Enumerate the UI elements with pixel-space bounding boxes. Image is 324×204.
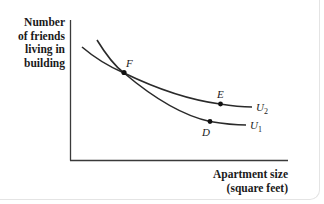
curve-u2-label: U2 — [256, 101, 268, 116]
indifference-curve-u1 — [97, 40, 246, 125]
point-f-marker — [121, 70, 126, 75]
point-d-marker — [208, 119, 213, 124]
curve-u1-label: U1 — [250, 119, 262, 134]
point-e-marker — [218, 102, 223, 107]
point-f-label: F — [125, 57, 133, 69]
indifference-curve-diagram: F E D U2 U1 — [0, 0, 324, 204]
point-e-label: E — [216, 88, 224, 100]
point-d-label: D — [201, 126, 210, 138]
